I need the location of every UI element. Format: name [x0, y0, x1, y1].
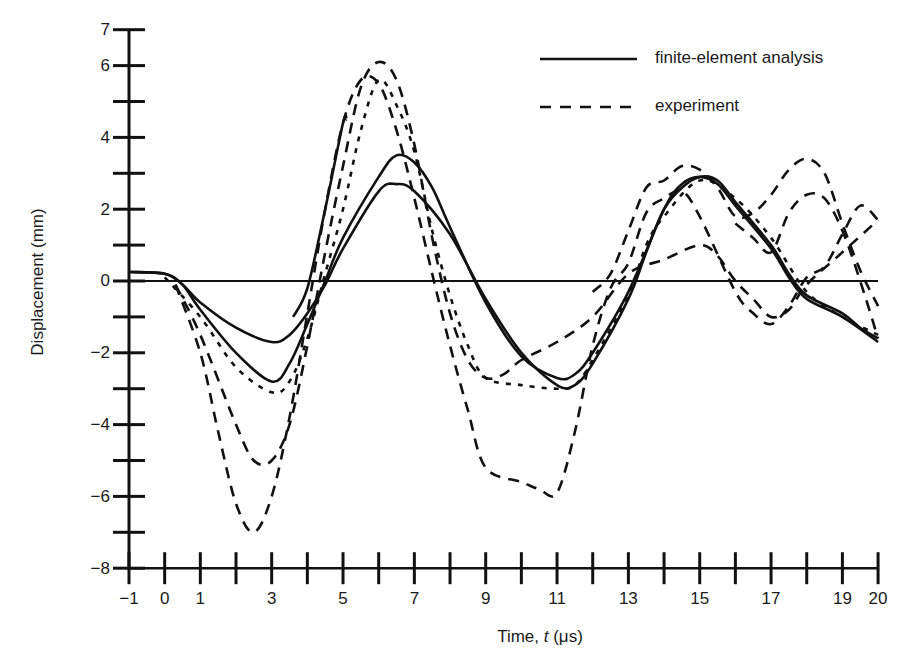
x-tick-label: 20	[869, 589, 888, 608]
x-tick-label: 5	[338, 589, 347, 608]
x-tick-label: 13	[619, 589, 638, 608]
y-tick-label: −4	[91, 415, 110, 434]
y-tick-label: 7	[101, 20, 110, 39]
series-layer	[129, 62, 878, 533]
y-tick-label: 0	[101, 271, 110, 290]
x-tick-label: 17	[762, 589, 781, 608]
experiment-curve	[175, 76, 878, 532]
y-tick-labels: 76420−2−4−6−8	[91, 20, 110, 578]
experiment-curve	[165, 79, 878, 393]
x-tick-label: 15	[690, 589, 709, 608]
displacement-time-chart: 76420−2−4−6−8 −1013579111315171920 Displ…	[0, 0, 911, 669]
x-tick-label: 7	[410, 589, 419, 608]
y-tick-label: 2	[101, 200, 110, 219]
legend: finite-element analysis experiment	[540, 48, 823, 115]
x-tick-label: 3	[267, 589, 276, 608]
x-tick-label: 19	[833, 589, 852, 608]
x-tick-labels: −1013579111315171920	[119, 589, 887, 608]
legend-label-experiment: experiment	[655, 96, 739, 115]
x-tick-label: 1	[196, 589, 205, 608]
fea-curve	[129, 155, 878, 382]
y-axis-title: Displacement (mm)	[28, 208, 47, 355]
y-tick-label: −2	[91, 343, 110, 362]
y-tick-label: 6	[101, 56, 110, 75]
y-tick-label: 4	[101, 128, 110, 147]
x-tick-label: 9	[481, 589, 490, 608]
y-tick-label: −6	[91, 487, 110, 506]
x-tick-label: −1	[119, 589, 138, 608]
fea-curve	[293, 115, 347, 316]
x-tick-label: 11	[548, 589, 566, 608]
x-axis	[129, 552, 878, 584]
x-tick-label: 0	[160, 589, 169, 608]
experiment-curve	[175, 62, 878, 465]
x-axis-title: Time, t (μs)	[497, 627, 583, 646]
y-axis	[113, 30, 145, 571]
y-tick-label: −8	[91, 559, 110, 578]
legend-label-fea: finite-element analysis	[655, 48, 823, 67]
